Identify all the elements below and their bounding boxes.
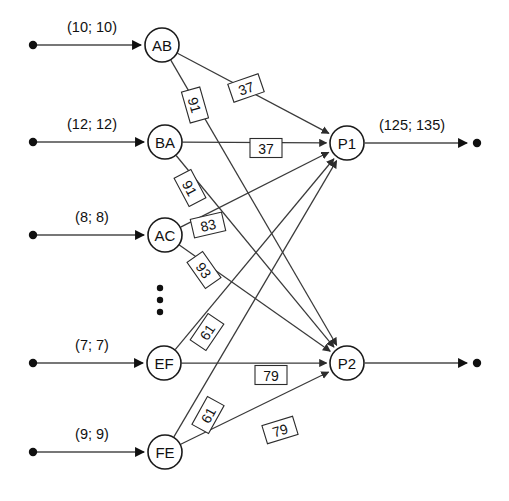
node-ef[interactable]: EF xyxy=(147,346,181,380)
sink-terminal-p1 xyxy=(473,139,481,147)
ellipsis-layer xyxy=(157,285,163,315)
node-ab[interactable]: AB xyxy=(145,28,179,62)
input-label-ba: (12; 12) xyxy=(67,116,117,132)
edge-weight-ef-p2: 79 xyxy=(255,366,287,385)
edge-ac-p1 xyxy=(181,152,329,227)
network-diagram: ABBAACEFFEP1P2 37913791839361796179 (10;… xyxy=(0,0,509,501)
ellipsis-dot-2 xyxy=(157,297,163,303)
node-p2[interactable]: P2 xyxy=(330,346,364,380)
node-label-ab: AB xyxy=(152,37,172,54)
io-layer xyxy=(29,41,481,456)
input-label-ef: (7; 7) xyxy=(75,337,109,353)
edge-weight-fe-p1: 61 xyxy=(192,396,224,433)
edge-weight-text: 79 xyxy=(263,368,279,384)
diagram-canvas: ABBAACEFFEP1P2 37913791839361796179 (10;… xyxy=(0,0,509,501)
node-label-p2: P2 xyxy=(338,355,356,372)
input-label-fe: (9; 9) xyxy=(75,426,109,442)
source-terminal-ef xyxy=(29,359,37,367)
ellipsis-dot-3 xyxy=(157,309,163,315)
node-label-ac: AC xyxy=(155,227,176,244)
edge-weight-fe-p2: 79 xyxy=(262,416,298,444)
input-label-ab: (10; 10) xyxy=(67,19,117,35)
source-terminal-fe xyxy=(29,448,37,456)
node-p1[interactable]: P1 xyxy=(330,126,364,160)
edge-weight-ba-p1: 37 xyxy=(250,139,282,158)
edge-weight-ba-p2: 91 xyxy=(174,169,206,206)
output-label-p1: (125; 135) xyxy=(379,117,445,133)
source-terminal-ba xyxy=(29,138,37,146)
node-label-p1: P1 xyxy=(338,135,356,152)
source-terminal-ac xyxy=(29,231,37,239)
edge-weight-text: 37 xyxy=(258,141,274,157)
source-terminal-ab xyxy=(29,41,37,49)
node-label-ba: BA xyxy=(155,134,175,151)
edge-weight-ef-p1: 61 xyxy=(190,313,224,350)
input-label-ac: (8; 8) xyxy=(75,209,109,225)
ellipsis-dot-1 xyxy=(157,285,163,291)
edge-weight-ac-p2: 93 xyxy=(187,251,221,288)
node-fe[interactable]: FE xyxy=(148,435,182,469)
node-label-ef: EF xyxy=(154,355,173,372)
edge-weight-ab-p2: 91 xyxy=(181,87,208,123)
node-ac[interactable]: AC xyxy=(148,218,182,252)
edge-weight-ab-p1: 37 xyxy=(228,74,264,102)
edge-ba-p2 xyxy=(176,156,334,348)
node-ba[interactable]: BA xyxy=(148,125,182,159)
sink-terminal-p2 xyxy=(473,359,481,367)
edge-weight-ac-p1: 83 xyxy=(190,212,225,238)
node-label-fe: FE xyxy=(155,444,174,461)
